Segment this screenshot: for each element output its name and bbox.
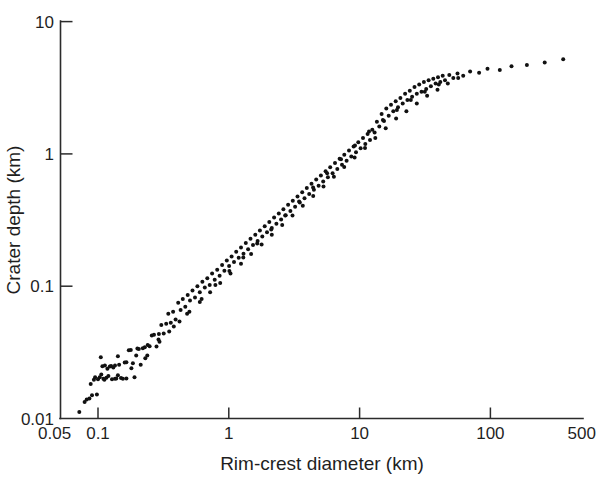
data-point	[415, 102, 419, 106]
data-point	[354, 150, 358, 154]
x-tick-label-1: 1	[224, 424, 233, 443]
data-point	[89, 382, 93, 386]
data-point	[331, 171, 335, 175]
data-point	[146, 343, 150, 347]
data-point	[246, 247, 250, 251]
data-point	[134, 353, 138, 357]
data-point	[131, 361, 135, 365]
data-point	[274, 222, 278, 226]
data-point	[422, 80, 426, 84]
data-point	[191, 288, 195, 292]
x-axis-ticks	[98, 408, 490, 419]
data-point	[200, 280, 204, 284]
data-point	[427, 78, 431, 82]
data-point	[241, 255, 245, 259]
data-point	[404, 109, 408, 113]
x-axis-tick-labels: 0.050.1110100500	[38, 424, 596, 443]
data-point	[291, 199, 295, 203]
data-point	[152, 333, 156, 337]
data-point	[342, 165, 346, 169]
data-point	[218, 281, 222, 285]
data-point	[321, 180, 325, 184]
data-point	[183, 305, 187, 309]
data-point	[270, 233, 274, 237]
data-point	[195, 284, 199, 288]
data-point	[277, 211, 281, 215]
data-point	[77, 410, 81, 414]
data-point	[291, 213, 295, 217]
data-point	[181, 297, 185, 301]
y-axis-tick-labels: 0.010.1110	[21, 13, 54, 429]
data-point	[157, 332, 161, 336]
data-point	[377, 125, 381, 129]
data-point	[279, 217, 283, 221]
data-point	[409, 98, 413, 102]
data-point	[121, 377, 125, 381]
data-point	[176, 301, 180, 305]
data-point	[99, 373, 103, 377]
data-point	[227, 269, 231, 273]
data-point	[395, 108, 399, 112]
data-point	[193, 296, 197, 300]
data-point	[167, 329, 171, 333]
data-point	[367, 129, 371, 133]
data-point	[443, 78, 447, 82]
data-point	[333, 161, 337, 165]
data-point	[186, 293, 190, 297]
data-point	[300, 190, 304, 194]
data-point	[486, 67, 490, 71]
data-point	[227, 264, 231, 268]
data-point	[113, 363, 117, 367]
data-point	[345, 159, 349, 163]
data-point	[267, 220, 271, 224]
scatter-plot: 0.050.1110100500 0.010.1110 Rim-crest di…	[0, 0, 607, 485]
data-point	[272, 216, 276, 220]
data-point	[328, 165, 332, 169]
data-point	[265, 230, 269, 234]
x-tick-label-0.1: 0.1	[86, 424, 110, 443]
x-tick-label-500: 500	[568, 424, 596, 443]
data-point	[143, 356, 147, 360]
data-point	[263, 224, 267, 228]
data-point	[162, 331, 166, 335]
data-point	[477, 71, 481, 75]
data-point	[431, 77, 435, 81]
data-point	[363, 142, 367, 146]
data-point	[288, 209, 292, 213]
data-point	[305, 186, 309, 190]
data-point	[456, 72, 460, 76]
data-point	[269, 228, 273, 232]
data-point	[208, 283, 212, 287]
data-point	[260, 242, 264, 246]
data-point	[178, 320, 182, 324]
data-point	[561, 57, 565, 61]
data-point	[106, 374, 110, 378]
data-point	[129, 366, 133, 370]
data-point	[456, 76, 460, 80]
data-point	[159, 323, 163, 327]
data-point	[213, 278, 217, 282]
data-point	[391, 109, 395, 113]
data-point	[310, 182, 314, 186]
data-point	[222, 269, 226, 273]
data-point	[90, 393, 94, 397]
data-point	[401, 102, 405, 106]
data-point	[249, 237, 253, 241]
data-point	[361, 136, 365, 140]
data-point	[437, 82, 441, 86]
data-point	[281, 207, 285, 211]
data-point	[213, 283, 217, 287]
data-point	[237, 256, 241, 260]
data-point	[353, 143, 357, 147]
data-point	[239, 246, 243, 250]
data-point	[510, 64, 514, 68]
y-axis-title: Crater depth (km)	[3, 146, 24, 295]
data-point	[451, 76, 455, 80]
data-point	[172, 325, 176, 329]
data-point	[311, 194, 315, 198]
data-point	[325, 171, 329, 175]
data-point	[423, 90, 427, 94]
data-point	[425, 94, 429, 98]
data-point	[103, 363, 107, 367]
data-point	[429, 84, 433, 88]
